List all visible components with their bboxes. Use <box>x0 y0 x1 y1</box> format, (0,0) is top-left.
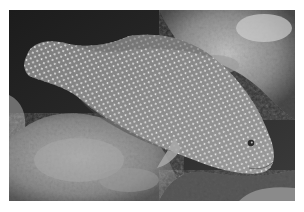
fish-photograph: Grayscale underwater photograph of a whi… <box>9 10 295 201</box>
photo-scene <box>9 10 295 201</box>
